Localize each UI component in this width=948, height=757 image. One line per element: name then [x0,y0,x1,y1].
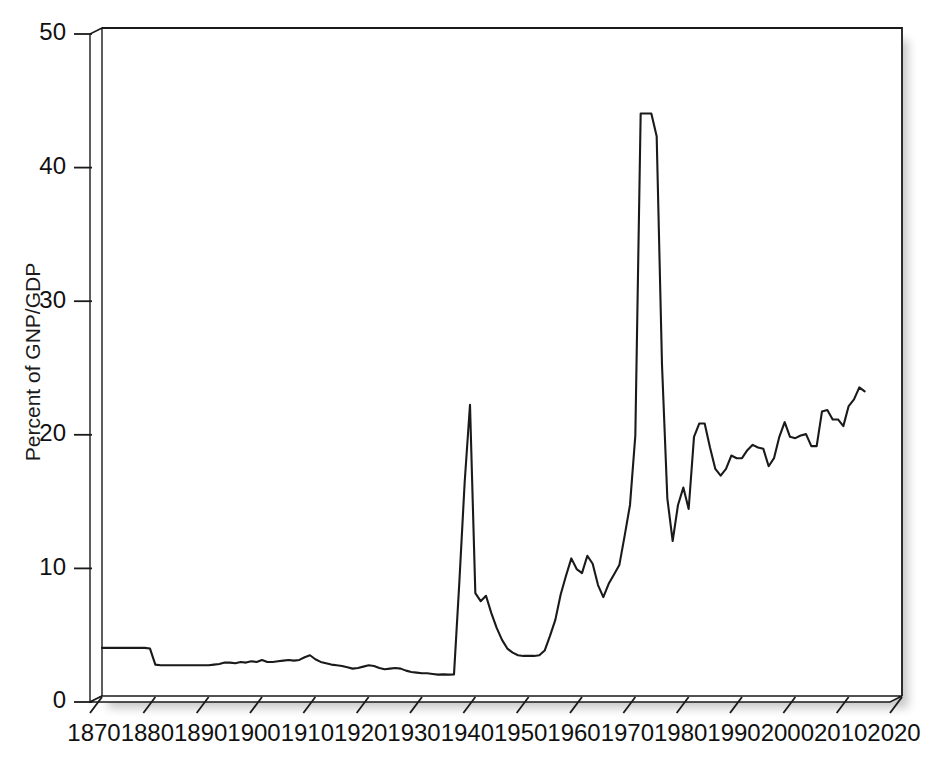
y-tick-label: 40 [39,152,66,179]
x-tick-label: 1950 [494,719,547,746]
x-tick-label: 1960 [547,719,600,746]
line-chart: 01020304050 1870188018901900191019201930… [0,0,948,757]
x-tick-label: 1980 [654,719,707,746]
y-tick-label: 50 [39,18,66,45]
x-tick-label: 1920 [334,719,387,746]
x-tick-label: 1900 [227,719,280,746]
x-tick-label: 1930 [387,719,440,746]
x-tick-label: 1990 [707,719,760,746]
x-tick-label: 2000 [761,719,814,746]
y-tick-label: 10 [39,553,66,580]
x-tick-label: 1880 [121,719,174,746]
x-axis-spine [90,696,902,702]
x-tick-label: 2010 [814,719,867,746]
chart-figure: 01020304050 1870188018901900191019201930… [0,0,948,757]
x-tick-label: 1910 [281,719,334,746]
x-tick-label: 1870 [67,719,120,746]
y-axis-spine [90,28,102,702]
plot-area [102,28,902,696]
y-tick-label: 0 [53,686,66,713]
x-tick-label: 2020 [867,719,920,746]
y-axis-title: Percent of GNP/GDP [21,263,44,461]
x-tick-label: 1890 [174,719,227,746]
x-tick-label: 1940 [441,719,494,746]
x-tick-label: 1970 [601,719,654,746]
